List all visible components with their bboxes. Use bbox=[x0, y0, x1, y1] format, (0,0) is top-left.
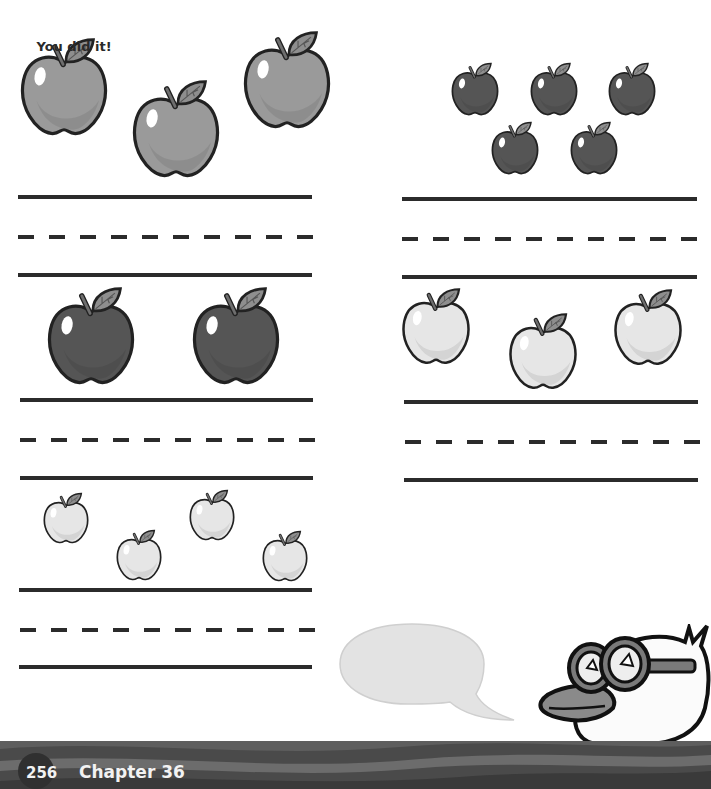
writing-line-mid bbox=[20, 628, 316, 632]
apple-icon bbox=[450, 61, 500, 117]
apple-icon bbox=[42, 490, 90, 546]
apple-icon bbox=[490, 120, 540, 176]
apple-icon bbox=[569, 120, 619, 176]
writing-line-bottom[interactable] bbox=[20, 476, 313, 480]
apple-icon bbox=[130, 77, 222, 180]
writing-line-bottom[interactable] bbox=[402, 275, 697, 279]
writing-line-bottom[interactable] bbox=[18, 273, 312, 277]
writing-line-top bbox=[20, 398, 313, 402]
apple-icon bbox=[612, 286, 684, 368]
speech-text: You did it! bbox=[0, 0, 148, 92]
apple-icon bbox=[607, 61, 657, 117]
writing-line-top bbox=[402, 197, 697, 201]
writing-line-top bbox=[19, 588, 312, 592]
apple-icon bbox=[190, 284, 282, 387]
writing-line-bottom[interactable] bbox=[19, 665, 312, 669]
apple-icon bbox=[507, 310, 579, 392]
apple-icon bbox=[529, 61, 579, 117]
writing-line-top bbox=[18, 195, 312, 199]
writing-line-mid bbox=[402, 237, 711, 241]
apple-icon bbox=[188, 487, 236, 543]
apple-icon bbox=[400, 285, 472, 367]
writing-line-bottom[interactable] bbox=[404, 478, 698, 482]
duck-mascot-icon bbox=[535, 624, 711, 744]
apple-icon bbox=[45, 284, 137, 387]
writing-line-top bbox=[404, 400, 698, 404]
page-number: 256 bbox=[26, 764, 57, 782]
writing-line-mid bbox=[18, 235, 316, 239]
apple-icon bbox=[261, 528, 309, 584]
speech-bubble-shape bbox=[338, 620, 486, 712]
writing-line-mid bbox=[405, 440, 711, 444]
chapter-title: Chapter 36 bbox=[79, 762, 185, 782]
apple-icon bbox=[115, 527, 163, 583]
writing-line-mid bbox=[20, 438, 318, 442]
apple-icon bbox=[241, 28, 333, 131]
